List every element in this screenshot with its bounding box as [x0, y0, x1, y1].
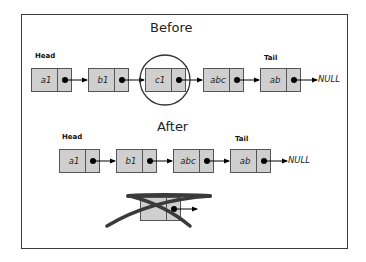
linked-list-deletion-diagram: Before Head Tail a1 b1 c1 abc ab NULL Af… [0, 0, 366, 262]
connector-overlay [0, 0, 366, 262]
cross-out-icon [107, 195, 210, 226]
